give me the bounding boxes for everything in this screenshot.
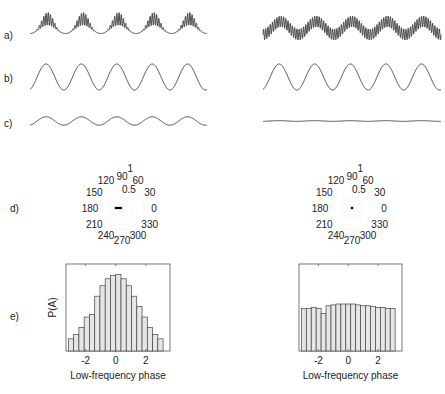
x-tick-label: 2 xyxy=(375,355,381,366)
signal-a-left xyxy=(30,13,207,34)
row-label-d: d) xyxy=(10,203,19,214)
polar-radial-label: 1 xyxy=(358,163,364,174)
polar-angle-label: 270 xyxy=(114,235,131,246)
row-label-a: a) xyxy=(4,30,13,41)
figure: a) b) c) d) e) 0306090120150180210240270… xyxy=(0,0,445,394)
signal-c-right xyxy=(263,121,441,122)
histogram-bar xyxy=(356,305,361,351)
row-label-c: c) xyxy=(4,118,12,129)
polar-angle-label: 300 xyxy=(130,230,147,241)
polar-angle-label: 150 xyxy=(86,187,103,198)
histogram-bar xyxy=(68,339,73,351)
polar-angle-label: 330 xyxy=(141,219,158,230)
signal-a-right xyxy=(263,16,441,40)
x-tick-label: -2 xyxy=(81,355,90,366)
histogram-bar xyxy=(84,317,89,351)
histogram-right: -202Low-frequency phase xyxy=(299,264,402,381)
histogram-bar xyxy=(390,308,395,351)
histogram-bar xyxy=(375,308,380,352)
histogram-bar xyxy=(153,334,158,351)
polar-angle-label: 150 xyxy=(316,187,333,198)
polar-grid-spoke xyxy=(333,197,352,208)
histogram-bar xyxy=(126,286,131,351)
signal-line-b-right xyxy=(263,64,441,90)
polar-plot-left: 03060901201501802102402703003300.51 xyxy=(82,163,159,245)
polar-angle-label: 180 xyxy=(312,203,329,214)
histogram-bar xyxy=(341,304,346,351)
polar-angle-label: 210 xyxy=(86,219,103,230)
polar-vector xyxy=(351,207,354,210)
polar-angle-label: 120 xyxy=(98,175,115,186)
signal-line-a-right xyxy=(263,16,441,40)
x-axis-label: Low-frequency phase xyxy=(70,370,166,381)
polar-grid-spoke xyxy=(122,208,141,219)
polar-angle-label: 270 xyxy=(344,235,361,246)
histogram-bar xyxy=(321,314,326,351)
y-axis-label: P(A) xyxy=(47,298,58,318)
polar-plot-right: 03060901201501802102402703003300.51 xyxy=(312,163,389,245)
polar-grid-spoke xyxy=(122,197,141,208)
histogram-bar xyxy=(105,279,110,351)
histogram-bar xyxy=(346,304,351,351)
x-axis-label: Low-frequency phase xyxy=(303,370,399,381)
polar-grid-spoke xyxy=(103,197,122,208)
polar-angle-label: 300 xyxy=(360,230,377,241)
x-tick-label: 0 xyxy=(113,355,119,366)
histogram-bar xyxy=(385,308,390,351)
histogram-bar xyxy=(316,308,321,351)
polar-angle-label: 0 xyxy=(381,203,387,214)
polar-radial-label: 0.5 xyxy=(122,184,136,195)
polar-grid-spoke xyxy=(122,208,133,227)
histogram-bar xyxy=(142,317,147,351)
histogram-bar xyxy=(116,274,121,351)
polar-grid-spoke xyxy=(352,197,371,208)
polar-angle-label: 240 xyxy=(328,230,345,241)
histogram-left: -202Low-frequency phaseP(A) xyxy=(47,264,170,381)
polar-angle-label: 90 xyxy=(346,171,358,182)
histogram-bar xyxy=(79,328,84,351)
histogram-bar xyxy=(311,308,316,352)
x-tick-label: -2 xyxy=(314,355,323,366)
histogram-bar xyxy=(306,308,311,351)
signal-c-left xyxy=(30,117,207,125)
histogram-bar xyxy=(326,306,331,351)
histogram-bar xyxy=(100,286,105,351)
polar-angle-label: 210 xyxy=(316,219,333,230)
histogram-bar xyxy=(301,308,306,351)
polar-angle-label: 330 xyxy=(371,219,388,230)
polar-angle-label: 240 xyxy=(98,230,115,241)
histogram-bar xyxy=(380,308,385,352)
signal-line-a-left xyxy=(30,13,207,34)
x-tick-label: 2 xyxy=(143,355,149,366)
histogram-bar xyxy=(89,314,94,351)
histogram-bar xyxy=(370,307,375,351)
histogram-bar xyxy=(331,305,336,351)
polar-angle-label: 90 xyxy=(116,171,128,182)
polar-angle-label: 30 xyxy=(144,187,156,198)
row-label-e: e) xyxy=(10,311,19,322)
histogram-bar xyxy=(361,306,366,351)
polar-grid-spoke xyxy=(333,208,352,219)
histogram-bar xyxy=(110,275,115,351)
polar-angle-label: 30 xyxy=(374,187,386,198)
polar-grid-spoke xyxy=(111,208,122,227)
histogram-bar xyxy=(336,304,341,351)
histogram-bar xyxy=(351,304,356,351)
signal-b-left xyxy=(30,64,207,90)
x-tick-label: 0 xyxy=(345,355,351,366)
signal-b-right xyxy=(263,64,441,90)
histogram-bar xyxy=(132,296,137,351)
signal-line-c-left xyxy=(30,117,207,125)
signal-line-b-left xyxy=(30,64,207,90)
polar-grid-spoke xyxy=(352,208,363,227)
polar-grid-spoke xyxy=(103,208,122,219)
histogram-bar xyxy=(74,334,79,351)
polar-angle-label: 180 xyxy=(82,203,99,214)
histogram-bar xyxy=(147,328,152,351)
histogram-bar xyxy=(158,339,163,351)
polar-grid-spoke xyxy=(341,208,352,227)
polar-grid-spoke xyxy=(341,189,352,208)
row-label-b: b) xyxy=(4,73,13,84)
histogram-bar xyxy=(366,306,371,351)
polar-angle-label: 120 xyxy=(328,175,345,186)
